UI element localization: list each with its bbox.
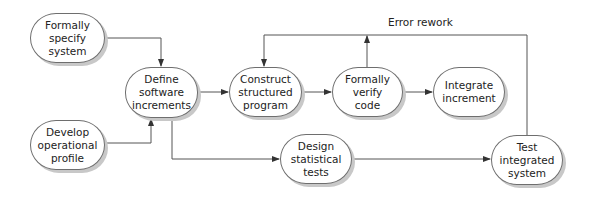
node-text: system — [500, 167, 555, 180]
node-text: Define — [132, 73, 191, 86]
node-text: verify — [345, 86, 390, 99]
cleanroom-process-diagram: Error rework Formally specify system Dev… — [0, 0, 595, 198]
node-text: specify — [45, 32, 90, 45]
node-text: structured — [238, 86, 292, 99]
node-test-integrated-system: Test integrated system — [491, 135, 563, 185]
edge-specify-to-define — [105, 38, 161, 66]
node-define-software-increments: Define software increments — [125, 67, 198, 118]
edge-define-to-design — [172, 118, 279, 159]
node-text: Formally — [345, 73, 390, 86]
node-design-statistical-tests: Design statistical tests — [280, 134, 352, 184]
node-text: increments — [132, 99, 191, 112]
node-formally-verify-code: Formally verify code — [332, 67, 403, 117]
node-text: program — [238, 99, 292, 112]
node-text: statistical — [291, 153, 342, 166]
node-text: software — [132, 86, 191, 99]
node-develop-operational-profile: Develop operational profile — [30, 120, 105, 170]
node-text: Integrate — [442, 79, 495, 92]
node-text: tests — [291, 166, 342, 179]
node-text: operational — [38, 139, 98, 152]
node-text: Design — [291, 140, 342, 153]
edge-profile-to-define — [105, 119, 151, 143]
node-text: Formally — [45, 19, 90, 32]
node-construct-structured-program: Construct structured program — [229, 67, 302, 117]
node-text: Construct — [238, 73, 292, 86]
error-rework-label: Error rework — [388, 16, 453, 28]
node-text: Develop — [38, 126, 98, 139]
node-formally-specify-system: Formally specify system — [30, 13, 105, 63]
node-text: code — [345, 99, 390, 112]
node-text: system — [45, 45, 90, 58]
node-text: Test — [500, 141, 555, 154]
node-text: integrated — [500, 154, 555, 167]
node-text: increment — [442, 92, 495, 105]
node-text: profile — [38, 152, 98, 165]
node-integrate-increment: Integrate increment — [433, 67, 505, 117]
